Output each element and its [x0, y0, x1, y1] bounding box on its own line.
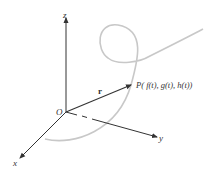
vector-r-label: r — [98, 86, 102, 96]
y-axis-label: y — [158, 133, 163, 143]
x-axis-label: x — [12, 158, 17, 168]
y-axis — [92, 119, 157, 137]
space-curve-diagram: z x y O r P( f(t), g(t), h(t)) — [0, 0, 224, 172]
origin-label: O — [56, 107, 63, 117]
x-axis — [20, 112, 66, 158]
y-axis-segment — [66, 112, 77, 115]
y-axis-segment — [82, 116, 87, 118]
z-axis-label: z — [62, 10, 67, 20]
point-p-label: P( f(t), g(t), h(t)) — [135, 80, 193, 90]
